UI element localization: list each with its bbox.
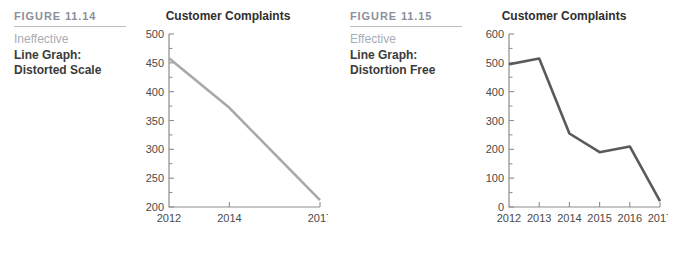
x-tick-label: 2016 — [618, 212, 642, 224]
line-chart-distortion-free: 0100200300400500600201220132014201520162… — [464, 24, 668, 244]
figure-pair: FIGURE 11.14 Ineffective Line Graph: Dis… — [0, 0, 673, 254]
caption-divider — [350, 26, 462, 27]
figure-description-line2: Distortion Free — [350, 63, 462, 78]
line-chart-distorted-scale: 200250300350400450500201220142017 — [128, 24, 328, 244]
figure-caption-2: FIGURE 11.15 Effective Line Graph: Disto… — [350, 10, 462, 78]
y-tick-label: 500 — [146, 28, 164, 40]
y-tick-label: 350 — [146, 115, 164, 127]
y-tick-label: 250 — [146, 172, 164, 184]
figure-number-label: FIGURE 11.15 — [350, 10, 462, 22]
x-tick-label: 2017 — [648, 212, 668, 224]
data-series-line — [509, 59, 660, 202]
x-tick-label: 2012 — [157, 212, 181, 224]
y-tick-label: 300 — [146, 143, 164, 155]
chart-axes — [169, 34, 320, 207]
x-tick-label: 2013 — [527, 212, 551, 224]
y-tick-label: 450 — [146, 57, 164, 69]
figure-description-line1: Line Graph: — [14, 48, 126, 63]
figure-block-2: FIGURE 11.15 Effective Line Graph: Disto… — [336, 0, 672, 254]
x-tick-label: 2014 — [557, 212, 581, 224]
caption-divider — [14, 26, 126, 27]
data-series-line — [169, 58, 320, 200]
y-tick-label: 200 — [486, 143, 504, 155]
y-tick-label: 100 — [486, 172, 504, 184]
y-tick-label: 300 — [486, 115, 504, 127]
y-tick-label: 600 — [486, 28, 504, 40]
figure-block-1: FIGURE 11.14 Ineffective Line Graph: Dis… — [0, 0, 336, 254]
x-tick-label: 2015 — [587, 212, 611, 224]
y-tick-label: 500 — [486, 57, 504, 69]
figure-description: Line Graph: Distorted Scale — [14, 48, 126, 78]
figure-evaluation-label: Ineffective — [14, 32, 126, 47]
figure-description: Line Graph: Distortion Free — [350, 48, 462, 78]
x-tick-label: 2014 — [217, 212, 241, 224]
chart-title: Customer Complaints — [464, 8, 664, 24]
figure-description-line1: Line Graph: — [350, 48, 462, 63]
figure-number-label: FIGURE 11.14 — [14, 10, 126, 22]
y-tick-label: 400 — [146, 86, 164, 98]
x-tick-label: 2012 — [497, 212, 521, 224]
figure-evaluation-label: Effective — [350, 32, 462, 47]
figure-description-line2: Distorted Scale — [14, 63, 126, 78]
chart-title: Customer Complaints — [128, 8, 328, 24]
x-tick-label: 2017 — [308, 212, 328, 224]
figure-caption-1: FIGURE 11.14 Ineffective Line Graph: Dis… — [14, 10, 126, 78]
chart-container-2: Customer Complaints 01002003004005006002… — [464, 8, 668, 244]
y-tick-label: 400 — [486, 86, 504, 98]
chart-container-1: Customer Complaints 20025030035040045050… — [128, 8, 332, 244]
